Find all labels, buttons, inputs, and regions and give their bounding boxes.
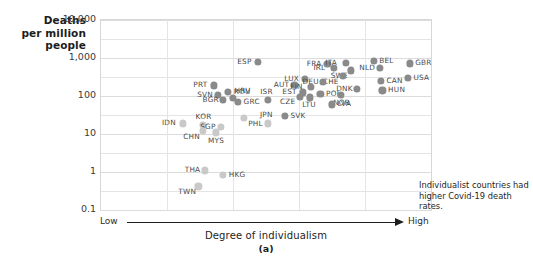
horizontal-gridline: [101, 172, 431, 173]
point-label-chn: CHN: [183, 133, 200, 141]
vertical-gridline: [167, 20, 168, 210]
point-label-grc: GRC: [244, 98, 260, 106]
point-label-gbr: GBR: [415, 59, 431, 67]
point-label-kor: KOR: [196, 113, 212, 121]
y-axis-title-line-3: people: [2, 39, 86, 52]
horizontal-gridline: [101, 153, 431, 154]
data-point-lva: [328, 101, 335, 108]
data-point-can: [377, 77, 384, 84]
point-label-svk: SVK: [290, 112, 305, 120]
point-label-irl: IRL: [313, 64, 325, 72]
point-label-usa: USA: [414, 74, 430, 82]
point-label-lva: LVA: [338, 100, 352, 108]
point-label-ltu: LTU: [302, 101, 316, 109]
y-axis-tick-label: 0.1: [32, 204, 96, 214]
data-point-idn: [179, 120, 186, 127]
data-point-phl: [240, 114, 247, 121]
point-label-nld: NLD: [359, 64, 375, 72]
data-point-ita: [342, 59, 349, 66]
x-axis-low-label: Low: [100, 216, 118, 226]
x-axis-high-label: High: [408, 216, 429, 226]
point-label-isr: ISR: [260, 88, 273, 96]
plot-area: ESPFRAITABELGBRNLDIRLSWECHEUSACANLUXDEUA…: [100, 19, 432, 211]
horizontal-gridline: [101, 191, 431, 192]
x-axis-title: Degree of individualism: [100, 230, 432, 241]
data-point-isr: [264, 96, 271, 103]
data-point-grc: [234, 98, 241, 105]
data-point-bgr: [220, 97, 227, 104]
vertical-gridline: [365, 20, 366, 210]
data-point-fin: [307, 83, 314, 90]
point-label-hrv: HRV: [235, 87, 251, 95]
point-label-est: EST: [282, 88, 296, 96]
horizontal-gridline: [101, 210, 431, 211]
data-point-jpn: [264, 120, 271, 127]
x-axis-arrow-head-icon: [395, 218, 404, 226]
y-axis-title-line-2: per million: [2, 27, 86, 40]
horizontal-gridline: [101, 39, 431, 40]
point-label-cze: CZE: [280, 98, 295, 106]
data-point-prt: [210, 82, 217, 89]
data-point-usa: [404, 74, 411, 81]
y-axis-tick-label: 1,000: [32, 52, 96, 62]
point-label-idn: IDN: [162, 119, 176, 127]
x-axis-direction-row: Low High: [100, 216, 432, 230]
data-point-nld: [376, 64, 383, 71]
point-label-mys: MYS: [208, 137, 224, 145]
point-label-hkg: HKG: [229, 171, 246, 179]
data-point-dnk: [353, 86, 360, 93]
data-point-hun: [379, 87, 386, 94]
data-point-hkg: [220, 171, 227, 178]
y-axis-tick-label: 10,000: [32, 14, 96, 24]
point-label-prt: PRT: [193, 81, 207, 89]
y-axis-tick-label: 100: [32, 90, 96, 100]
point-label-jpn: JPN: [260, 111, 273, 119]
horizontal-gridline: [101, 20, 431, 21]
data-point-swe: [347, 67, 354, 74]
y-axis-tick-label: 10: [32, 128, 96, 138]
data-point-esp: [254, 58, 261, 65]
annotation-text: Individualist countries had higher Covid…: [419, 180, 533, 212]
data-point-svk: [281, 112, 288, 119]
data-point-cze: [296, 93, 303, 100]
x-axis-arrow-line: [127, 222, 397, 223]
y-axis-tick-label: 1: [32, 166, 96, 176]
figure-caption: (a): [100, 243, 432, 254]
point-label-esp: ESP: [237, 58, 251, 66]
point-label-phl: PHL: [248, 120, 263, 128]
point-label-can: CAN: [386, 77, 402, 85]
data-point-gbr: [406, 60, 413, 67]
horizontal-gridline: [101, 134, 431, 135]
point-label-tha: THA: [185, 166, 201, 174]
point-label-hun: HUN: [388, 86, 405, 94]
vertical-gridline: [233, 20, 234, 210]
point-label-bgr: BGR: [203, 96, 219, 104]
point-label-twn: TWN: [178, 188, 196, 196]
